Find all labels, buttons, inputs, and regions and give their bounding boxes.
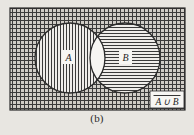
region-label-text: A ∪ B bbox=[154, 97, 178, 107]
set-a-label: A bbox=[64, 52, 72, 63]
figure-caption: (b) bbox=[0, 112, 194, 124]
set-b-label: B bbox=[122, 52, 128, 63]
